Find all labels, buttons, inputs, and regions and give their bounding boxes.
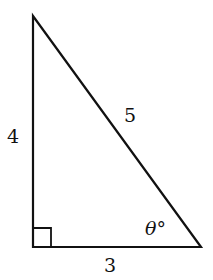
vertical-leg-label: 4 [7,125,19,147]
right-triangle [33,16,201,247]
triangle-diagram: 4 5 3 θ° [0,0,213,280]
hypotenuse-label: 5 [124,104,136,126]
angle-theta-label: θ° [145,217,166,239]
right-angle-marker [33,228,51,247]
horizontal-leg-label: 3 [104,254,116,276]
